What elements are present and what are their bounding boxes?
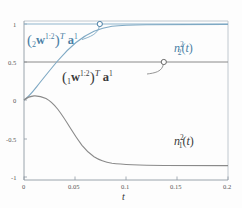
figure-container: 1 0.5 0 -0.5 -1 0 0.05 0.1 0.15 0.2 t (2… (0, 0, 242, 208)
y-tick-label-0: 0 (13, 97, 16, 104)
x-axis-ticks (24, 177, 228, 181)
x-axis-label: t (122, 191, 125, 202)
marker-lower (161, 59, 166, 64)
plot-frame (24, 21, 228, 180)
y-tick-label-neg0p5: -0.5 (6, 136, 16, 143)
x-tick-label-0p05: 0.05 (68, 183, 79, 190)
y-axis-ticks (24, 24, 27, 177)
y-tick-label-neg1: -1 (11, 174, 16, 181)
y-tick-label-0p5: 0.5 (8, 59, 16, 66)
leader-lower (147, 64, 163, 74)
y-tick-label-1: 1 (13, 21, 16, 28)
x-tick-label-0: 0 (22, 183, 25, 190)
x-tick-label-0p1: 0.1 (121, 183, 129, 190)
x-tick-label-0p15: 0.15 (170, 183, 181, 190)
x-tick-label-0p2: 0.2 (223, 183, 231, 190)
curve-n1 (24, 96, 228, 166)
marker-upper (97, 21, 102, 26)
plot-canvas (0, 0, 242, 208)
